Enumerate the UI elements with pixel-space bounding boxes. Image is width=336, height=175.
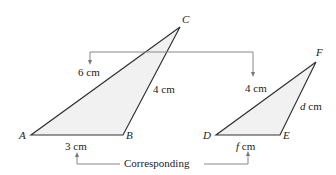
vertex-a-label: A <box>18 129 26 141</box>
top-correspondence-bracket <box>90 52 253 72</box>
side-bc-label: 4 cm <box>153 83 175 95</box>
similar-triangles-diagram: A B C D E F 6 cm 4 cm 3 cm 4 cm d cm f c… <box>0 0 336 175</box>
side-ac-label: 6 cm <box>78 66 100 78</box>
corresponding-label: Corresponding <box>124 157 190 169</box>
triangle-abc <box>31 27 180 135</box>
arrow-down-icon <box>251 72 255 77</box>
vertex-b-label: B <box>126 129 133 141</box>
arrow-down-icon <box>88 60 92 65</box>
side-ab-label: 3 cm <box>65 140 87 152</box>
vertex-f-label: F <box>315 46 323 58</box>
vertex-c-label: C <box>182 13 190 25</box>
triangle-def <box>216 62 316 135</box>
side-de-label: f cm <box>236 140 256 152</box>
side-ef-label: d cm <box>300 100 322 112</box>
arrow-up-icon <box>75 152 79 157</box>
vertex-d-label: D <box>202 129 211 141</box>
vertex-e-label: E <box>282 129 290 141</box>
side-df-label: 4 cm <box>245 82 267 94</box>
